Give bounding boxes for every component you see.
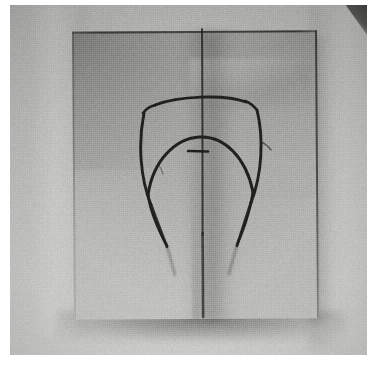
midline-fold-line-lower [203,233,204,317]
screenshot-root [0,0,374,368]
right-converge-faint [229,245,237,274]
left-converge-faint [167,246,175,275]
midline-fold-line [202,29,203,235]
surgical-marking-pattern [10,5,367,355]
nipple-tick-mark [188,151,208,152]
left-shoulder-tick [143,105,156,113]
upper-arc [155,97,246,105]
stray-mark-left [159,165,163,174]
right-shoulder-tick [245,101,257,110]
photograph [10,5,367,355]
inner-arch [148,137,253,195]
